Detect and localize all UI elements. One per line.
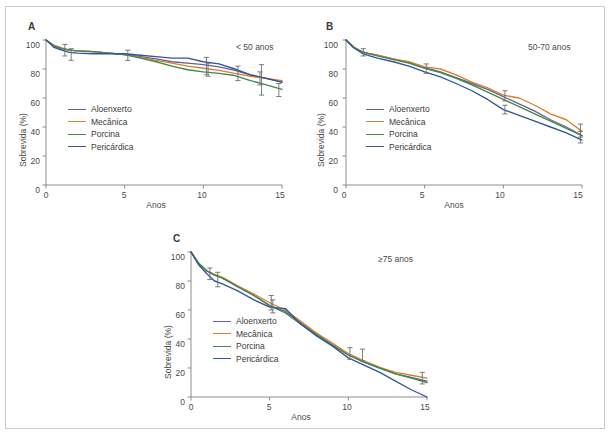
- legend-label-mecanica: Mecânica: [389, 117, 425, 127]
- legend-label-mecanica: Mecânica: [236, 329, 272, 339]
- panel-c-legend: Aloenxerto Mecânica Porcina Pericárdica: [213, 315, 279, 365]
- legend-swatch-mecanica: [213, 333, 231, 334]
- legend-item-mecanica: Mecânica: [68, 116, 134, 129]
- legend-item-mecanica: Mecânica: [213, 328, 279, 341]
- legend-swatch-pericardica: [213, 358, 231, 359]
- panel-a-ytick-80: 80: [16, 69, 40, 79]
- panel-c-xtick-10: 10: [339, 402, 355, 412]
- legend-label-pericardica: Pericárdica: [236, 354, 279, 364]
- legend-label-porcina: Porcina: [91, 129, 120, 139]
- legend-swatch-porcina: [213, 346, 231, 347]
- legend-item-porcina: Porcina: [213, 340, 279, 353]
- legend-swatch-pericardica: [68, 146, 86, 147]
- panel-a-legend: Aloenxerto Mecânica Porcina Pericárdica: [68, 103, 134, 153]
- panel-a-ytick-40: 40: [16, 127, 40, 137]
- panel-a-ytick-60: 60: [16, 98, 40, 108]
- panel-b-xtick-5: 5: [414, 190, 430, 200]
- legend-label-aloenxerto: Aloenxerto: [91, 104, 132, 114]
- panel-c-xtick-5: 5: [261, 402, 277, 412]
- legend-swatch-mecanica: [68, 121, 86, 122]
- legend-swatch-pericardica: [366, 146, 384, 147]
- legend-label-pericardica: Pericárdica: [91, 142, 134, 152]
- legend-item-pericardica: Pericárdica: [68, 141, 134, 154]
- legend-item-pericardica: Pericárdica: [213, 353, 279, 366]
- panel-c-x-axis-title: Anos: [271, 412, 331, 422]
- panel-c-plot: [151, 219, 456, 429]
- legend-swatch-porcina: [68, 134, 86, 135]
- panel-b-ytick-80: 80: [314, 69, 338, 79]
- panel-b-ytick-20: 20: [314, 156, 338, 166]
- panel-b-ytick-60: 60: [314, 98, 338, 108]
- legend-label-mecanica: Mecânica: [91, 117, 127, 127]
- panel-b-letter: B: [326, 21, 333, 32]
- legend-item-porcina: Porcina: [366, 128, 432, 141]
- panel-a: A < 50 anos Sobrevida (%) Anos 0 20 40 6…: [6, 7, 311, 217]
- panel-a-xtick-10: 10: [194, 190, 210, 200]
- panel-b-xtick-10: 10: [492, 190, 508, 200]
- panel-b: B 50-70 anos Sobrevida (%) Anos 0 20 40 …: [306, 7, 606, 217]
- panel-a-xtick-15: 15: [272, 190, 288, 200]
- legend-swatch-mecanica: [366, 121, 384, 122]
- panel-b-ytick-100: 100: [314, 40, 338, 50]
- legend-label-aloenxerto: Aloenxerto: [389, 104, 430, 114]
- panel-b-legend: Aloenxerto Mecânica Porcina Pericárdica: [366, 103, 432, 153]
- panel-a-x-axis-title: Anos: [126, 200, 186, 210]
- legend-label-pericardica: Pericárdica: [389, 142, 432, 152]
- panel-a-letter: A: [28, 21, 35, 32]
- panel-a-ytick-20: 20: [16, 156, 40, 166]
- panel-a-plot: [6, 7, 311, 217]
- panel-a-ytick-0: 0: [16, 185, 40, 195]
- panel-c-xtick-15: 15: [417, 402, 433, 412]
- panel-c-subtitle: ≥75 anos: [378, 254, 413, 264]
- legend-item-pericardica: Pericárdica: [366, 141, 432, 154]
- panel-a-xtick-5: 5: [116, 190, 132, 200]
- panel-b-xtick-15: 15: [570, 190, 586, 200]
- panel-a-xtick-0: 0: [38, 190, 54, 200]
- panel-b-plot: [306, 7, 606, 217]
- panel-c-ytick-100: 100: [161, 252, 185, 262]
- legend-label-porcina: Porcina: [236, 341, 265, 351]
- panel-c-ytick-40: 40: [161, 339, 185, 349]
- panel-b-ytick-0: 0: [314, 185, 338, 195]
- legend-item-aloenxerto: Aloenxerto: [213, 315, 279, 328]
- panel-c-letter: C: [173, 233, 180, 244]
- panel-c-xtick-0: 0: [183, 402, 199, 412]
- panel-a-ytick-100: 100: [16, 40, 40, 50]
- figure-frame: A < 50 anos Sobrevida (%) Anos 0 20 40 6…: [5, 6, 605, 429]
- panel-b-x-axis-title: Anos: [424, 200, 484, 210]
- panel-c-ytick-20: 20: [161, 368, 185, 378]
- panel-b-ytick-40: 40: [314, 127, 338, 137]
- legend-item-aloenxerto: Aloenxerto: [68, 103, 134, 116]
- legend-label-aloenxerto: Aloenxerto: [236, 316, 277, 326]
- legend-item-aloenxerto: Aloenxerto: [366, 103, 432, 116]
- panel-c-ytick-60: 60: [161, 310, 185, 320]
- panel-b-xtick-0: 0: [336, 190, 352, 200]
- panel-a-subtitle: < 50 anos: [236, 42, 274, 52]
- legend-label-porcina: Porcina: [389, 129, 418, 139]
- legend-swatch-aloenxerto: [213, 321, 231, 322]
- panel-c: C ≥75 anos Sobrevida (%) Anos 0 20 40 60…: [151, 219, 456, 429]
- legend-item-porcina: Porcina: [68, 128, 134, 141]
- legend-swatch-aloenxerto: [366, 109, 384, 110]
- legend-swatch-porcina: [366, 134, 384, 135]
- panel-c-ytick-0: 0: [161, 397, 185, 407]
- legend-item-mecanica: Mecânica: [366, 116, 432, 129]
- panel-b-subtitle: 50-70 anos: [528, 42, 571, 52]
- legend-swatch-aloenxerto: [68, 109, 86, 110]
- panel-c-ytick-80: 80: [161, 281, 185, 291]
